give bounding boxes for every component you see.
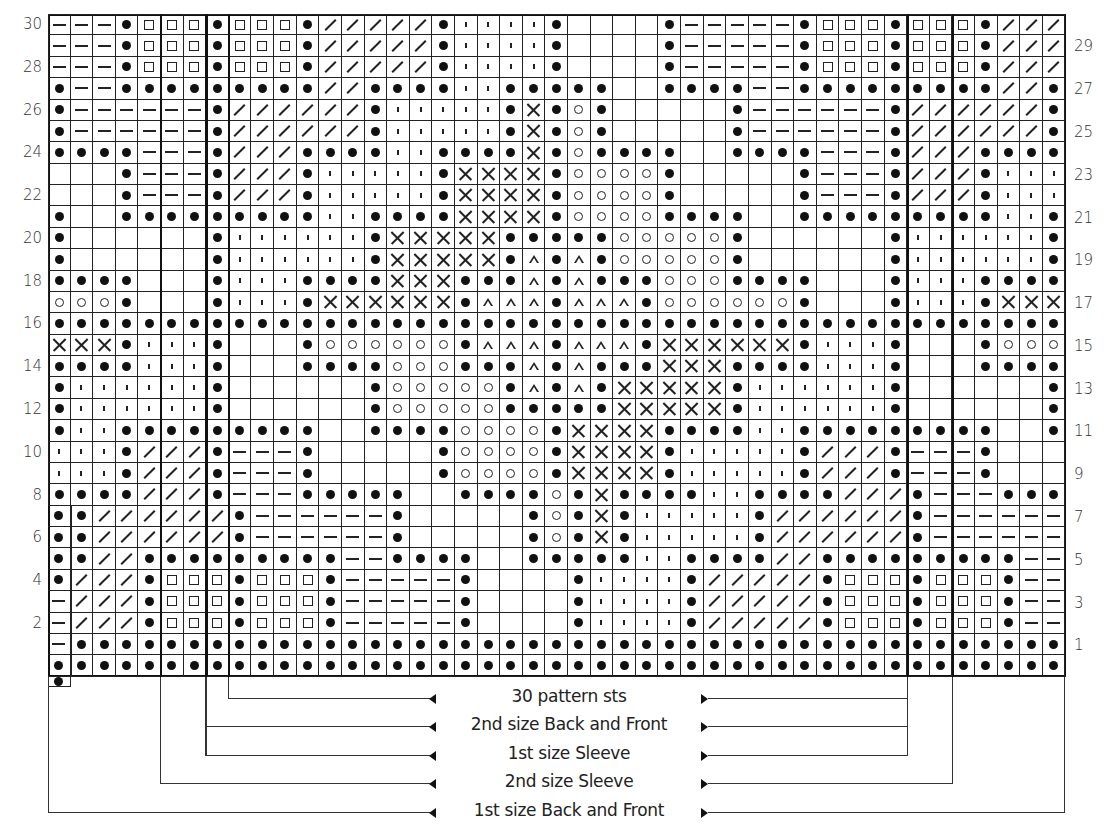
open-circle-icon [478, 463, 501, 484]
open-square-icon [839, 591, 862, 612]
filled-dot-icon [1043, 249, 1066, 270]
open-circle-icon [500, 420, 523, 441]
blank-icon [681, 121, 704, 142]
dash-icon [48, 57, 71, 78]
open-circle-icon [432, 377, 455, 398]
filled-dot-icon [704, 78, 727, 99]
open-square-icon [885, 591, 908, 612]
bracket-right-arm [708, 726, 908, 727]
filled-dot-icon [161, 655, 184, 676]
filled-dot-icon [952, 420, 975, 441]
open-triangle-icon [568, 292, 591, 313]
dash-icon [71, 78, 94, 99]
filled-dot-icon [274, 634, 297, 655]
filled-dot-icon [817, 613, 840, 634]
filled-dot-icon [161, 634, 184, 655]
tick-icon [998, 206, 1021, 227]
filled-dot-icon [885, 377, 908, 398]
blank-icon [365, 442, 388, 463]
filled-dot-icon [568, 634, 591, 655]
blank-icon [500, 570, 523, 591]
slash-icon [1020, 78, 1043, 99]
cross-icon [704, 356, 727, 377]
tick-icon [229, 271, 252, 292]
open-square-icon [184, 57, 207, 78]
open-square-icon [184, 591, 207, 612]
filled-dot-icon [71, 142, 94, 163]
slash-icon [817, 463, 840, 484]
arrow-left-icon [429, 722, 436, 732]
slash-icon [794, 591, 817, 612]
blank-icon [726, 185, 749, 206]
open-square-icon [251, 35, 274, 56]
dash-icon [1020, 527, 1043, 548]
filled-dot-icon [998, 484, 1021, 505]
blank-icon [342, 420, 365, 441]
filled-dot-icon [591, 142, 614, 163]
tick-icon [907, 249, 930, 270]
dash-icon [1020, 570, 1043, 591]
filled-dot-icon [432, 442, 455, 463]
filled-dot-icon [1043, 377, 1066, 398]
filled-dot-icon [116, 164, 139, 185]
filled-dot-icon [907, 78, 930, 99]
open-triangle-icon [523, 356, 546, 377]
tick-icon [772, 420, 795, 441]
dash-icon [681, 14, 704, 35]
blank-icon [319, 377, 342, 398]
filled-dot-icon [48, 399, 71, 420]
open-circle-icon [545, 506, 568, 527]
filled-dot-icon [794, 634, 817, 655]
filled-dot-icon [658, 57, 681, 78]
filled-dot-icon [794, 463, 817, 484]
filled-dot-icon [432, 57, 455, 78]
open-square-icon [161, 570, 184, 591]
tick-icon [817, 335, 840, 356]
row-label: 22 [4, 188, 42, 203]
filled-dot-icon [365, 313, 388, 334]
filled-dot-icon [885, 356, 908, 377]
slash-icon [930, 164, 953, 185]
dash-icon [817, 100, 840, 121]
filled-dot-icon [568, 484, 591, 505]
dash-icon [862, 142, 885, 163]
filled-dot-icon [387, 527, 410, 548]
slash-icon [342, 35, 365, 56]
filled-dot-icon [952, 655, 975, 676]
cross-icon [319, 292, 342, 313]
filled-dot-icon [297, 484, 320, 505]
slash-icon [930, 142, 953, 163]
open-circle-icon [613, 228, 636, 249]
dash-icon [930, 463, 953, 484]
filled-dot-icon [297, 356, 320, 377]
cross-icon [455, 185, 478, 206]
slash-icon [907, 100, 930, 121]
open-square-icon [297, 570, 320, 591]
slash-icon [1020, 14, 1043, 35]
blank-icon [930, 335, 953, 356]
slash-icon [138, 506, 161, 527]
open-square-icon [839, 14, 862, 35]
slash-icon [1020, 57, 1043, 78]
bracket-right-line [952, 677, 953, 783]
filled-dot-icon [297, 14, 320, 35]
dash-icon [251, 463, 274, 484]
bracket-left-arm [160, 783, 430, 784]
filled-dot-icon [658, 185, 681, 206]
filled-dot-icon [1043, 399, 1066, 420]
tick-icon [704, 506, 727, 527]
blank-icon [410, 442, 433, 463]
open-circle-icon [455, 442, 478, 463]
cross-icon [636, 420, 659, 441]
blank-icon [319, 463, 342, 484]
slash-icon [772, 613, 795, 634]
filled-dot-icon [975, 206, 998, 227]
filled-dot-icon [206, 100, 229, 121]
dash-icon [862, 100, 885, 121]
tick-icon [455, 100, 478, 121]
filled-dot-icon [297, 271, 320, 292]
filled-dot-icon [1043, 100, 1066, 121]
tick-icon [410, 142, 433, 163]
filled-dot-icon [885, 164, 908, 185]
filled-dot-icon [952, 206, 975, 227]
